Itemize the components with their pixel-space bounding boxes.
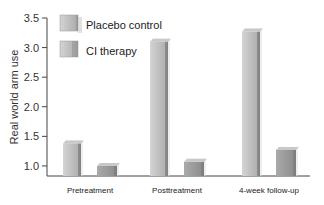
x-category-label: Posttreatment [152, 186, 203, 195]
bar-chart: 1.01.52.02.53.03.5 Real world arm use Pr… [0, 0, 324, 205]
y-axis: 1.01.52.02.53.03.5 Real world arm use [8, 12, 47, 176]
y-tick-label: 2.5 [24, 71, 39, 83]
legend-item-ci: CI therapy [60, 41, 137, 57]
legend-label-placebo: Placebo control [86, 19, 162, 31]
x-category-label: 4-week follow-up [239, 186, 300, 195]
y-tick-label: 3.0 [24, 42, 39, 54]
bar-ci-2 [276, 147, 299, 176]
bar-placebo-1 [150, 39, 171, 176]
bar-placebo-2 [242, 29, 263, 176]
x-category-label: Pretreatment [67, 186, 114, 195]
y-tick-label: 1.0 [24, 160, 39, 172]
y-tick-label: 3.5 [24, 12, 39, 24]
legend-swatch-placebo-icon [60, 15, 78, 31]
category-labels: PretreatmentPosttreatment4-week follow-u… [67, 186, 300, 195]
y-tick-label: 2.0 [24, 101, 39, 113]
bar-ci-0 [97, 163, 120, 176]
legend: Placebo control CI therapy [60, 15, 162, 57]
legend-label-ci: CI therapy [86, 45, 137, 57]
bar-placebo-0 [63, 140, 84, 176]
bar-ci-1 [184, 159, 207, 176]
legend-item-placebo: Placebo control [60, 15, 162, 33]
y-axis-label: Real world arm use [8, 50, 20, 145]
y-tick-label: 1.5 [24, 130, 39, 142]
